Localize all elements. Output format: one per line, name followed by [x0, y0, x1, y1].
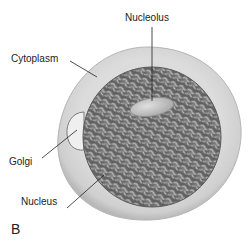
cytoplasm-label: Cytoplasm: [11, 54, 58, 64]
golgi-label: Golgi: [9, 157, 32, 167]
nucleus-label: Nucleus: [21, 197, 57, 207]
nucleolus-label: Nucleolus: [125, 13, 169, 23]
panel-letter: B: [11, 222, 20, 236]
